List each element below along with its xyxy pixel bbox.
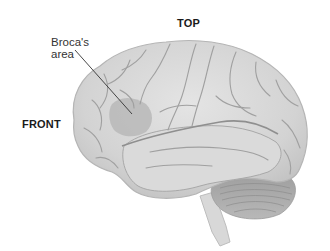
- front-orientation-label: FRONT: [22, 119, 61, 130]
- broca-label-line1: Broca's: [51, 36, 89, 48]
- broca-label-line2: area: [51, 48, 89, 60]
- broca-area-label: Broca's area: [51, 36, 89, 60]
- top-orientation-label: TOP: [177, 18, 200, 29]
- broca-region: [109, 98, 152, 136]
